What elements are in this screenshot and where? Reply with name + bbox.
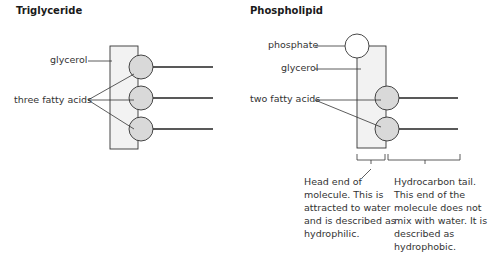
svg-text:This end of the: This end of the (393, 189, 465, 200)
phosphate-label: phosphate (268, 39, 318, 50)
head-caption: Head end of molecule. This is attracted … (304, 176, 396, 239)
svg-text:molecule. This is: molecule. This is (304, 189, 383, 200)
lipid-diagram: Triglyceride glycerol three fatty acids … (0, 0, 488, 257)
head-bracket (357, 154, 385, 164)
fatty-acid-head (375, 117, 399, 141)
svg-text:molecule does not: molecule does not (394, 202, 482, 213)
triglyceride-diagram: Triglyceride glycerol three fatty acids (14, 5, 213, 149)
fatty-acid-head (129, 55, 153, 79)
tail-caption: Hydrocarbon tail. This end of the molecu… (393, 176, 487, 252)
fatty-acids-label: three fatty acids (14, 94, 92, 105)
svg-text:mix with water. It is: mix with water. It is (394, 215, 487, 226)
fatty-acid-head (129, 117, 153, 141)
svg-text:Head end of: Head end of (304, 176, 363, 187)
phospholipid-diagram: Phospholipid phosphate glycerol two fatt… (250, 5, 487, 252)
head-caption-leader (362, 169, 371, 178)
svg-text:attracted to water: attracted to water (304, 202, 391, 213)
triglyceride-title: Triglyceride (16, 5, 82, 16)
svg-text:and is described as: and is described as (304, 215, 396, 226)
phospholipid-title: Phospholipid (250, 5, 323, 16)
glycerol-label: glycerol (50, 54, 88, 65)
tail-bracket (388, 154, 460, 164)
fatty-acid-head (375, 86, 399, 110)
phosphate-head (345, 34, 369, 58)
glycerol-label: glycerol (281, 62, 319, 73)
fatty-acid-head (129, 86, 153, 110)
svg-text:hydrophobic.: hydrophobic. (394, 241, 456, 252)
svg-text:described as: described as (394, 228, 454, 239)
svg-text:Hydrocarbon tail.: Hydrocarbon tail. (394, 176, 476, 187)
svg-text:hydrophilic.: hydrophilic. (304, 228, 359, 239)
fatty-acids-label: two fatty acids (250, 93, 320, 104)
